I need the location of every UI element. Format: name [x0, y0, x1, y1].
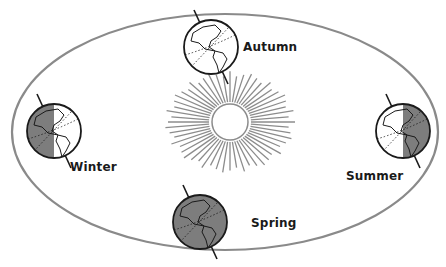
sun-icon	[165, 71, 295, 172]
earth-globe-summer-icon	[376, 94, 430, 168]
diagram-canvas	[0, 0, 446, 267]
season-label-summer: Summer	[346, 169, 403, 183]
season-label-winter: Winter	[70, 160, 117, 174]
seasons-diagram: Autumn Winter Summer Spring	[0, 0, 446, 267]
season-label-autumn: Autumn	[243, 40, 297, 54]
earth-globe-winter-icon	[27, 94, 81, 168]
season-label-spring: Spring	[251, 216, 297, 230]
